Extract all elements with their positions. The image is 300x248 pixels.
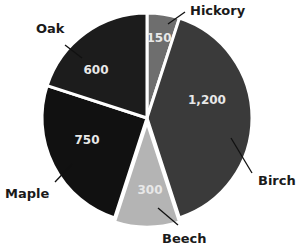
category-label-maple: Maple — [5, 186, 49, 201]
value-label-oak: 600 — [83, 63, 108, 77]
category-label-hickory: Hickory — [190, 3, 246, 18]
category-label-beech: Beech — [162, 231, 207, 246]
category-label-birch: Birch — [258, 173, 296, 188]
pie-chart: 150Hickory1,200Birch300Beech750Maple600O… — [0, 0, 300, 248]
value-label-birch: 1,200 — [188, 93, 226, 107]
value-label-maple: 750 — [74, 133, 99, 147]
value-label-hickory: 150 — [146, 31, 171, 45]
value-label-beech: 300 — [137, 183, 162, 197]
category-label-oak: Oak — [36, 21, 65, 36]
